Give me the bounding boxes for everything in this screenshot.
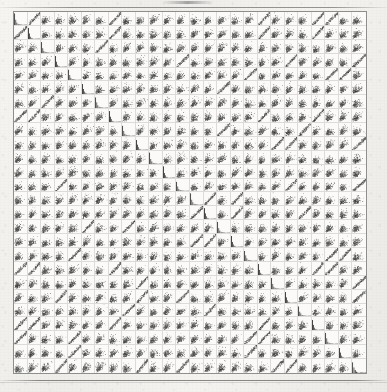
splom-scatter-panel <box>312 220 326 234</box>
splom-scatter-panel <box>136 12 150 26</box>
splom-scatter-panel <box>149 192 163 206</box>
splom-scatter-panel <box>339 95 353 109</box>
splom-scatter-panel <box>149 68 163 82</box>
splom-scatter-panel <box>28 248 42 262</box>
splom-scatter-panel <box>352 206 366 220</box>
splom-scatter-panel <box>271 234 285 248</box>
splom-scatter-panel <box>231 54 245 68</box>
splom-scatter-panel <box>352 290 366 304</box>
splom-scatter-panel <box>325 68 339 82</box>
scatterplot-matrix[interactable] <box>13 11 367 374</box>
splom-scatter-panel <box>41 68 55 82</box>
splom-scatter-panel <box>14 151 28 165</box>
splom-scatter-panel <box>41 262 55 276</box>
splom-scatter-panel <box>82 26 96 40</box>
splom-scatter-panel <box>163 179 177 193</box>
splom-scatter-panel <box>122 137 136 151</box>
splom-scatter-panel <box>285 26 299 40</box>
splom-scatter-panel <box>352 165 366 179</box>
splom-scatter-panel <box>163 206 177 220</box>
splom-scatter-panel <box>55 12 69 26</box>
splom-scatter-panel <box>68 81 82 95</box>
splom-scatter-panel <box>339 359 353 373</box>
splom-scatter-panel <box>163 234 177 248</box>
splom-scatter-panel <box>244 359 258 373</box>
splom-scatter-panel <box>28 95 42 109</box>
splom-scatter-panel <box>68 206 82 220</box>
splom-scatter-panel <box>95 206 109 220</box>
splom-scatter-panel <box>217 304 231 318</box>
splom-scatter-panel <box>122 248 136 262</box>
splom-scatter-panel <box>41 290 55 304</box>
splom-scatter-panel <box>339 234 353 248</box>
splom-scatter-panel <box>68 137 82 151</box>
splom-scatter-panel <box>68 304 82 318</box>
splom-scatter-panel <box>217 137 231 151</box>
splom-scatter-panel <box>28 290 42 304</box>
splom-scatter-panel <box>204 165 218 179</box>
splom-scatter-panel <box>14 248 28 262</box>
splom-scatter-panel <box>285 137 299 151</box>
splom-scatter-panel <box>339 12 353 26</box>
splom-scatter-panel <box>95 290 109 304</box>
splom-scatter-panel <box>325 95 339 109</box>
splom-scatter-panel <box>109 192 123 206</box>
splom-scatter-panel <box>258 26 272 40</box>
splom-scatter-panel <box>298 345 312 359</box>
splom-scatter-panel <box>271 123 285 137</box>
splom-diagonal-histogram <box>109 109 123 123</box>
splom-scatter-panel <box>176 81 190 95</box>
splom-scatter-panel <box>136 262 150 276</box>
splom-scatter-panel <box>82 137 96 151</box>
splom-scatter-panel <box>258 359 272 373</box>
splom-scatter-panel <box>190 345 204 359</box>
splom-scatter-panel <box>204 137 218 151</box>
splom-scatter-panel <box>190 234 204 248</box>
splom-scatter-panel <box>95 54 109 68</box>
splom-scatter-panel <box>312 165 326 179</box>
splom-scatter-panel <box>82 151 96 165</box>
splom-scatter-panel <box>122 304 136 318</box>
splom-scatter-panel <box>28 276 42 290</box>
splom-scatter-panel <box>14 331 28 345</box>
splom-scatter-panel <box>136 26 150 40</box>
splom-scatter-panel <box>14 304 28 318</box>
splom-scatter-panel <box>122 345 136 359</box>
splom-scatter-panel <box>28 331 42 345</box>
splom-scatter-panel <box>285 317 299 331</box>
splom-scatter-panel <box>325 345 339 359</box>
splom-scatter-panel <box>149 248 163 262</box>
splom-scatter-panel <box>68 40 82 54</box>
splom-scatter-panel <box>122 68 136 82</box>
splom-scatter-panel <box>325 123 339 137</box>
splom-scatter-panel <box>339 123 353 137</box>
splom-scatter-panel <box>41 12 55 26</box>
splom-scatter-panel <box>325 262 339 276</box>
splom-scatter-panel <box>163 220 177 234</box>
splom-scatter-panel <box>231 165 245 179</box>
splom-scatter-panel <box>285 54 299 68</box>
splom-scatter-panel <box>325 26 339 40</box>
splom-scatter-panel <box>14 54 28 68</box>
splom-scatter-panel <box>55 81 69 95</box>
splom-scatter-panel <box>55 26 69 40</box>
splom-scatter-panel <box>149 26 163 40</box>
splom-scatter-panel <box>352 95 366 109</box>
splom-scatter-panel <box>352 345 366 359</box>
splom-scatter-panel <box>244 317 258 331</box>
splom-scatter-panel <box>122 234 136 248</box>
horizontal-rule-bottom-shadow <box>0 382 387 383</box>
splom-scatter-panel <box>285 179 299 193</box>
splom-scatter-panel <box>176 123 190 137</box>
splom-scatter-panel <box>204 359 218 373</box>
splom-scatter-panel <box>339 317 353 331</box>
splom-scatter-panel <box>68 123 82 137</box>
splom-diagonal-histogram <box>122 123 136 137</box>
splom-scatter-panel <box>109 220 123 234</box>
splom-scatter-panel <box>312 109 326 123</box>
splom-scatter-panel <box>217 54 231 68</box>
splom-scatter-panel <box>352 262 366 276</box>
splom-scatter-panel <box>231 95 245 109</box>
splom-scatter-panel <box>14 109 28 123</box>
splom-scatter-panel <box>312 26 326 40</box>
